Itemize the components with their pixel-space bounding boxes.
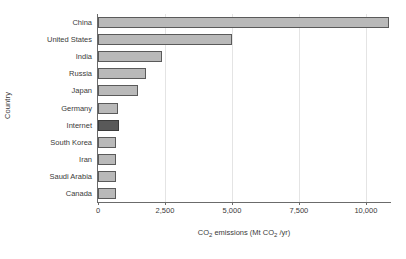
bar — [98, 103, 118, 114]
x-tick-label: 10,000 — [354, 206, 377, 215]
y-axis-title: Country — [0, 0, 14, 210]
bar — [98, 171, 116, 182]
bar — [98, 17, 389, 28]
bar-row — [98, 151, 390, 168]
bar — [98, 34, 232, 45]
y-tick-label: Japan — [14, 82, 96, 99]
bar-row — [98, 65, 390, 82]
bar — [98, 120, 119, 131]
y-tick-label: India — [14, 48, 96, 65]
bar-row — [98, 185, 390, 202]
y-tick-label: United States — [14, 31, 96, 48]
bar — [98, 85, 138, 96]
y-tick-label: Russia — [14, 65, 96, 82]
bar-row — [98, 82, 390, 99]
bar-row — [98, 134, 390, 151]
x-tick-label: 5,000 — [223, 206, 242, 215]
bar — [98, 137, 116, 148]
y-tick-label: China — [14, 14, 96, 31]
y-tick-label: Germany — [14, 99, 96, 116]
x-tick-mark — [232, 202, 233, 205]
bar-row — [98, 48, 390, 65]
x-tick-label: 0 — [96, 206, 100, 215]
x-tick-mark — [98, 202, 99, 205]
x-tick-mark — [366, 202, 367, 205]
y-axis-tick-labels: ChinaUnited StatesIndiaRussiaJapanGerman… — [14, 14, 96, 202]
bar-row — [98, 31, 390, 48]
bar-chart: Country ChinaUnited StatesIndiaRussiaJap… — [0, 0, 406, 259]
y-tick-label: Saudi Arabia — [14, 168, 96, 185]
bar-row — [98, 117, 390, 134]
bar — [98, 154, 116, 165]
y-tick-label: Canada — [14, 185, 96, 202]
x-tick-mark — [165, 202, 166, 205]
x-tick-mark — [299, 202, 300, 205]
bar — [98, 51, 162, 62]
x-axis-title: CO2 emissions (Mt CO2 /yr) — [98, 228, 390, 237]
bar — [98, 68, 146, 79]
bar-row — [98, 99, 390, 116]
y-tick-label: Iran — [14, 151, 96, 168]
bars-layer — [98, 14, 390, 202]
x-axis-line — [97, 202, 391, 203]
x-axis-title-label: CO2 emissions (Mt CO2 /yr) — [198, 228, 291, 237]
bar-row — [98, 14, 390, 31]
plot-area — [98, 14, 390, 202]
y-axis-title-label: Country — [3, 92, 12, 119]
y-tick-label: Internet — [14, 117, 96, 134]
x-tick-label: 2,500 — [156, 206, 175, 215]
bar-row — [98, 168, 390, 185]
y-tick-label: South Korea — [14, 134, 96, 151]
bar — [98, 188, 116, 199]
x-tick-label: 7,500 — [290, 206, 309, 215]
